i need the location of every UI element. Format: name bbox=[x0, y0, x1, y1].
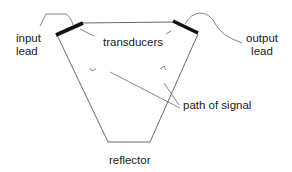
path-of-signal-label: path of signal bbox=[183, 99, 251, 112]
transducers-pointer-left bbox=[80, 29, 94, 36]
input-lead-label-line1: input bbox=[16, 32, 41, 45]
transducers-label: transducers bbox=[103, 36, 163, 49]
input-lead-label-line2: lead bbox=[16, 45, 41, 58]
reflector-label: reflector bbox=[109, 154, 151, 167]
right-side bbox=[150, 34, 198, 142]
input-lead-label: input lead bbox=[16, 32, 41, 58]
delay-line-diagram bbox=[0, 0, 292, 172]
output-lead-label-line1: output bbox=[246, 32, 278, 45]
output-lead-label-line2: lead bbox=[246, 45, 278, 58]
input-lead-wire bbox=[40, 14, 73, 26]
signal-arrow-up-icon bbox=[160, 66, 166, 70]
transducers-pointer-right bbox=[166, 31, 171, 34]
output-lead-label: output lead bbox=[246, 32, 278, 58]
output-lead-wire bbox=[185, 13, 242, 43]
signal-arrow-down-icon bbox=[90, 68, 96, 71]
top-edge bbox=[80, 22, 176, 23]
path-pointer-right bbox=[164, 83, 179, 105]
input-transducer bbox=[56, 23, 83, 35]
left-side bbox=[57, 35, 108, 142]
path-pointer-left bbox=[110, 72, 180, 108]
